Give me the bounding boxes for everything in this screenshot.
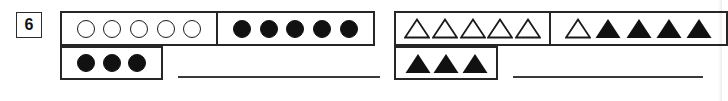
triangle-filled	[626, 18, 652, 39]
triangle-filled	[595, 18, 621, 39]
triangle-open	[460, 18, 486, 39]
circle-filled	[260, 20, 278, 38]
leftover-triangles-cell	[396, 48, 496, 78]
circle-filled	[77, 54, 95, 72]
triangle-filled	[433, 53, 459, 74]
triangle-open	[515, 18, 541, 39]
circle-filled	[128, 54, 146, 72]
triangle-open	[432, 18, 458, 39]
circle-open	[103, 20, 121, 38]
triangle-open	[487, 18, 513, 39]
circle-filled	[313, 20, 331, 38]
circle-filled	[286, 20, 304, 38]
circle-open	[157, 20, 175, 38]
circle-open	[183, 20, 201, 38]
mixed-triangles-cell	[549, 13, 726, 44]
triangle-open	[404, 18, 430, 39]
triangle-open	[565, 18, 591, 39]
triangle-filled	[462, 53, 488, 74]
filled-circles-cell	[216, 13, 373, 44]
open-triangles-cell	[396, 13, 549, 44]
leftover-circles-cell	[62, 48, 161, 78]
circles-tens-box	[60, 11, 375, 46]
circles-answer-line[interactable]	[178, 76, 380, 78]
circle-filled	[103, 54, 121, 72]
triangle-filled	[656, 18, 682, 39]
triangles-tens-box	[394, 11, 728, 46]
triangles-answer-line[interactable]	[513, 76, 703, 78]
circle-open	[130, 20, 148, 38]
problem-number-label: 6	[25, 17, 34, 33]
triangle-filled	[686, 18, 712, 39]
circle-filled	[340, 20, 358, 38]
triangles-ones-box	[394, 46, 498, 80]
circle-filled	[233, 20, 251, 38]
circle-open	[77, 20, 95, 38]
open-circles-cell	[62, 13, 216, 44]
problem-number-box: 6	[16, 12, 42, 38]
circles-ones-box	[60, 46, 163, 80]
triangle-filled	[405, 53, 431, 74]
